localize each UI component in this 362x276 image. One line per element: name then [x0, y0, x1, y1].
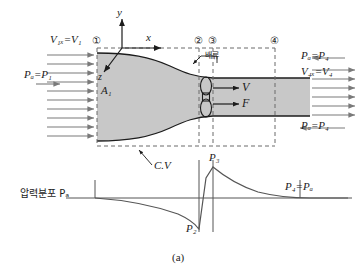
- control-volume-leader: [139, 150, 152, 165]
- outlet-pressure-label-bottom: Pₐ=P₄: [301, 120, 329, 131]
- station-marker-1: ①: [92, 36, 101, 46]
- y-axis-label: y: [117, 7, 122, 18]
- z-axis-label: z: [98, 72, 102, 82]
- valve-label: 배류: [205, 52, 219, 60]
- velocity-label: V: [242, 81, 249, 93]
- station-marker-2: ②: [194, 36, 203, 46]
- force-label: F: [242, 97, 249, 109]
- inlet-velocity-label: V₁ₓ=V₁: [50, 34, 82, 45]
- pressure-distribution-label: 압력분포 Pₐ: [20, 189, 69, 199]
- station-marker-3: ③: [208, 36, 217, 46]
- pressure-plot-axes: [66, 160, 352, 232]
- p3-annotation: P₃: [209, 152, 220, 163]
- inlet-pressure-label: Pₐ=P₁: [24, 69, 52, 80]
- p2-annotation: P₂: [186, 223, 197, 234]
- figure-caption: (a): [172, 252, 184, 263]
- outlet-pressure-label-top: Pₐ=P₄: [301, 50, 329, 61]
- slipstream-body: [97, 53, 310, 141]
- inlet-flow-arrows: [47, 55, 94, 136]
- inlet-area-label: A₁: [101, 85, 112, 96]
- outlet-velocity-label: V₄ₓ=V₄: [301, 66, 333, 77]
- figure-canvas: V₁ₓ=V₁ Pₐ=P₁ A₁ Pₐ=P₄ V₄ₓ=V₄ Pₐ=P₄ V F 배…: [0, 0, 362, 276]
- station-marker-4: ④: [270, 36, 279, 46]
- control-volume-label: C.V: [154, 160, 171, 171]
- x-axis-label: x: [146, 32, 151, 43]
- p4-annotation: P₄=Pₐ: [285, 181, 313, 192]
